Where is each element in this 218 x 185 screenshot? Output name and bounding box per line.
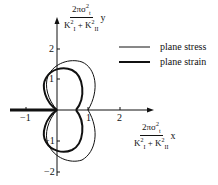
tick-y-1: 1 <box>49 74 54 84</box>
legend-stress-label: plane stress <box>160 42 206 52</box>
x-label-numerator: 2πσ <box>142 122 156 132</box>
y-label-numerator: 2πσ <box>72 4 86 14</box>
tick-y-neg2: −2 <box>44 167 55 177</box>
x-axis-label: 2πσ2t K2I + K2II x <box>134 121 176 150</box>
plane-stress-upper-lobe <box>46 61 95 110</box>
diagram-canvas <box>0 0 218 185</box>
legend-strain-label: plane strain <box>160 57 206 67</box>
tick-x-2: 2 <box>117 113 122 123</box>
tick-x-1: 1 <box>86 113 91 123</box>
tick-y-neg1: −1 <box>44 136 55 146</box>
y-axis-arrow-icon <box>55 17 60 24</box>
x-axis-arrow-icon <box>147 108 154 113</box>
x-label-var: x <box>171 130 176 141</box>
tick-x-neg1: −1 <box>20 113 31 123</box>
y-label-var: y <box>101 12 106 23</box>
y-axis-label: 2πσ2t K2I + K2II y <box>64 3 106 32</box>
tick-y-2: 2 <box>49 44 54 54</box>
